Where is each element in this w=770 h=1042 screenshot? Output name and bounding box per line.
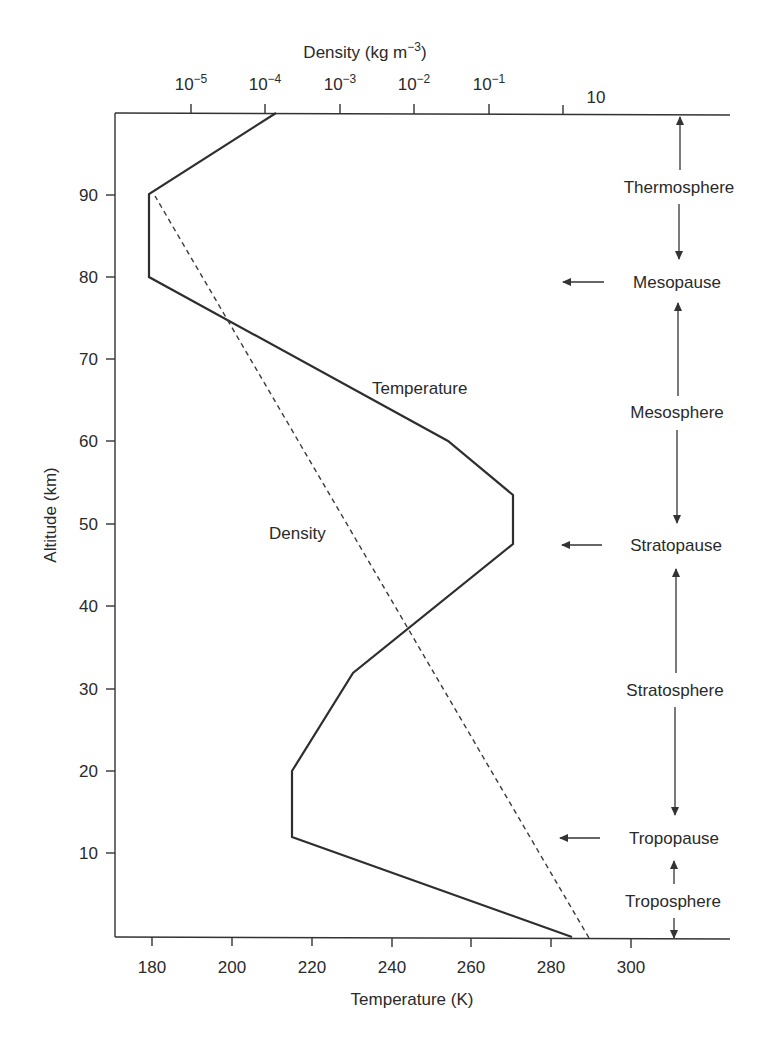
x-axis-bottom bbox=[115, 937, 730, 939]
y-tick-labels: 10 20 30 40 50 60 70 80 90 bbox=[79, 186, 98, 863]
y-tick-label: 20 bbox=[79, 762, 98, 781]
atmosphere-profile-chart: 10 20 30 40 50 60 70 80 90 Altitude (km)… bbox=[0, 0, 770, 1042]
mesosphere-label: Mesosphere bbox=[630, 403, 724, 422]
density-curve bbox=[155, 196, 589, 938]
mesopause-label: Mesopause bbox=[633, 273, 721, 292]
tropopause-label: Tropopause bbox=[629, 829, 719, 848]
x-axis-title: Temperature (K) bbox=[351, 990, 474, 1009]
x-tick-label: 220 bbox=[298, 958, 326, 977]
y-tick-label: 30 bbox=[79, 680, 98, 699]
temperature-curve-label: Temperature bbox=[372, 379, 467, 398]
y-tick-label: 50 bbox=[79, 515, 98, 534]
x-tick-label: 260 bbox=[457, 958, 485, 977]
top-tick-label: 10 bbox=[587, 88, 606, 107]
thermosphere-label: Thermosphere bbox=[624, 178, 735, 197]
y-tick-label: 60 bbox=[79, 432, 98, 451]
y-tick-label: 70 bbox=[79, 350, 98, 369]
y-tick-label: 90 bbox=[79, 186, 98, 205]
x-tick-label: 200 bbox=[218, 958, 246, 977]
y-axis-title: Altitude (km) bbox=[41, 467, 60, 562]
top-tick-label: 10−2 bbox=[398, 72, 431, 94]
y-tick-label: 80 bbox=[79, 268, 98, 287]
top-tick-labels: 10−5 10−4 10−3 10−2 10−1 10 bbox=[175, 72, 606, 107]
top-tick-label: 10−5 bbox=[175, 72, 208, 94]
density-curve-label: Density bbox=[269, 524, 326, 543]
top-tick-label: 10−4 bbox=[249, 72, 282, 94]
y-ticks bbox=[106, 195, 115, 853]
stratopause-label: Stratopause bbox=[630, 536, 722, 555]
troposphere-label: Troposphere bbox=[625, 892, 721, 911]
x-tick-label: 300 bbox=[617, 958, 645, 977]
x-tick-label: 180 bbox=[138, 958, 166, 977]
y-tick-label: 40 bbox=[79, 597, 98, 616]
temperature-curve bbox=[149, 113, 572, 937]
top-tick-label: 10−1 bbox=[473, 72, 506, 94]
x-tick-label: 280 bbox=[537, 958, 565, 977]
top-tick-label: 10−3 bbox=[324, 72, 357, 94]
x-tick-labels: 180 200 220 240 260 280 300 bbox=[138, 958, 645, 977]
y-tick-label: 10 bbox=[79, 844, 98, 863]
x-axis-top bbox=[115, 113, 730, 115]
stratosphere-label: Stratosphere bbox=[626, 681, 723, 700]
x-tick-label: 240 bbox=[378, 958, 406, 977]
top-axis-title: Density (kg m−3) bbox=[303, 40, 426, 62]
